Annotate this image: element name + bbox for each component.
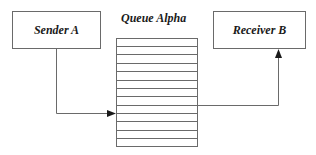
queue-stack (117, 39, 198, 147)
sender-to-queue-arrow (57, 49, 117, 117)
arrowhead-icon (275, 49, 282, 58)
diagram-canvas (0, 0, 316, 155)
queue-to-receiver-arrow (198, 49, 283, 106)
arrowhead-icon (107, 110, 116, 117)
